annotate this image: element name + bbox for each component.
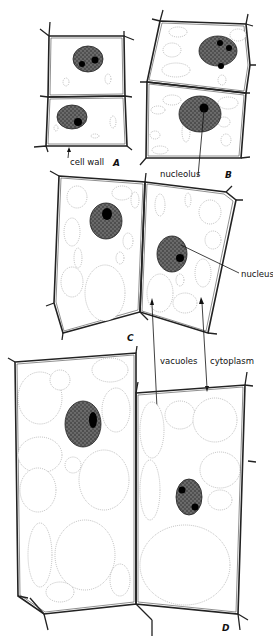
stage-label-b: B xyxy=(225,170,232,180)
stage-d-cells xyxy=(8,346,256,636)
stage-a-cells xyxy=(34,22,134,152)
cell-c-right xyxy=(140,182,236,333)
label-cell-wall: cell wall xyxy=(67,147,104,167)
stage-b-cells xyxy=(140,10,256,165)
cell-wall-label: cell wall xyxy=(70,157,104,167)
nucleus-a-top xyxy=(73,46,103,72)
stage-label-d: D xyxy=(222,623,230,633)
cell-a-top xyxy=(48,36,125,97)
cell-a-bottom xyxy=(46,96,127,146)
cell-b-bottom xyxy=(146,82,246,158)
stage-label-c: C xyxy=(127,333,134,343)
cell-b-top xyxy=(147,21,250,93)
stage-c-cells xyxy=(46,171,243,340)
nucleus-label: nucleus xyxy=(241,269,273,279)
cell-c-left xyxy=(54,176,145,333)
vacuoles-label: vacuoles xyxy=(160,356,198,366)
nucleus-a-bottom xyxy=(57,105,87,129)
stage-label-a: A xyxy=(112,158,120,168)
nucleus-d-right xyxy=(176,479,202,515)
nucleus-b-top xyxy=(199,36,237,66)
cell-d-left xyxy=(15,353,136,614)
nucleus-b-bottom xyxy=(179,96,221,132)
cell-d-right xyxy=(136,385,245,614)
cytoplasm-label: cytoplasm xyxy=(210,356,254,366)
label-nucleus: nucleus xyxy=(181,245,273,279)
nucleolus-label: nucleolus xyxy=(160,169,201,179)
nucleolus-icon xyxy=(79,61,85,67)
plant-cell-diagram: cell wall A xyxy=(0,0,273,640)
nucleus-c-right xyxy=(157,236,187,272)
